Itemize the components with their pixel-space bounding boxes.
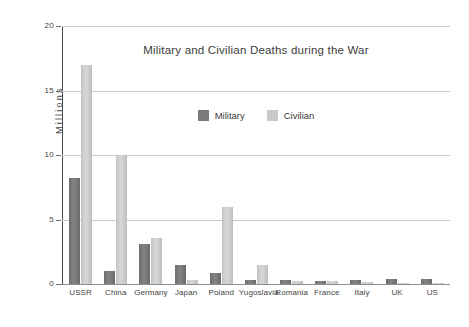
x-axis-baseline (56, 284, 450, 285)
bar-group (344, 26, 379, 284)
bar-group (309, 26, 344, 284)
y-tick-label: 15 (28, 86, 54, 95)
y-tick-mark (56, 284, 61, 285)
y-tick-mark (56, 155, 61, 156)
x-tick-label: USSR (63, 288, 98, 297)
bar-military[interactable] (175, 265, 186, 284)
bar-military[interactable] (245, 280, 256, 284)
x-axis-labels: USSRChinaGermanyJapanPolandYugoslaviaRom… (63, 288, 450, 297)
x-tick-label: UK (380, 288, 415, 297)
bar-group (63, 26, 98, 284)
bar-chart-figure: Military and Civilian Deaths during the … (0, 0, 469, 327)
bar-civilian[interactable] (81, 65, 92, 284)
bar-civilian[interactable] (433, 283, 444, 284)
bars-layer (63, 26, 450, 284)
bar-civilian[interactable] (398, 283, 409, 284)
bar-group (415, 26, 450, 284)
bar-military[interactable] (315, 281, 326, 284)
bar-civilian[interactable] (151, 238, 162, 284)
bar-military[interactable] (350, 280, 361, 285)
x-tick-label: China (98, 288, 133, 297)
bar-civilian[interactable] (362, 282, 373, 284)
y-tick-label: 0 (28, 279, 54, 288)
y-tick-mark (56, 26, 61, 27)
bar-group (98, 26, 133, 284)
bar-civilian[interactable] (222, 207, 233, 284)
y-tick-label: 5 (28, 215, 54, 224)
bar-group (133, 26, 168, 284)
y-tick-label: 20 (28, 21, 54, 30)
x-tick-label: Italy (344, 288, 379, 297)
bar-civilian[interactable] (116, 155, 127, 284)
x-tick-label: France (309, 288, 344, 297)
bar-military[interactable] (139, 244, 150, 284)
bar-group (204, 26, 239, 284)
x-tick-label: US (415, 288, 450, 297)
bar-military[interactable] (69, 178, 80, 284)
y-tick-mark (56, 91, 61, 92)
bar-civilian[interactable] (187, 280, 198, 284)
bar-civilian[interactable] (327, 281, 338, 284)
bar-group (239, 26, 274, 284)
bar-civilian[interactable] (257, 265, 268, 284)
bar-military[interactable] (386, 279, 397, 284)
x-tick-label: Germany (133, 288, 168, 297)
bar-group (169, 26, 204, 284)
x-tick-label: Yugoslavia (239, 288, 274, 297)
bar-military[interactable] (421, 279, 432, 284)
x-tick-label: Japan (169, 288, 204, 297)
bar-group (380, 26, 415, 284)
x-tick-label: Romania (274, 288, 309, 297)
y-tick-mark (56, 220, 61, 221)
y-tick-label: 10 (28, 150, 54, 159)
bar-civilian[interactable] (292, 281, 303, 284)
bar-group (274, 26, 309, 284)
plot-area: Military and Civilian Deaths during the … (62, 26, 450, 284)
bar-military[interactable] (210, 273, 221, 284)
bar-military[interactable] (104, 271, 115, 284)
x-tick-label: Poland (204, 288, 239, 297)
bar-military[interactable] (280, 280, 291, 284)
